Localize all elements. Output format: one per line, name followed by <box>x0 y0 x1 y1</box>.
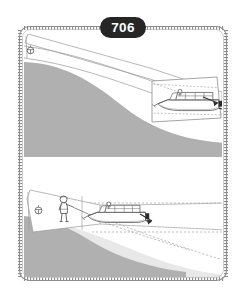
figure-number-badge: 706 <box>100 17 146 38</box>
panel-bottom <box>20 163 226 279</box>
panel-top <box>20 28 226 162</box>
figure-number-label: 706 <box>111 20 135 35</box>
figure-canvas: 706 <box>0 0 246 293</box>
figure-illustration: 706 <box>0 0 246 293</box>
